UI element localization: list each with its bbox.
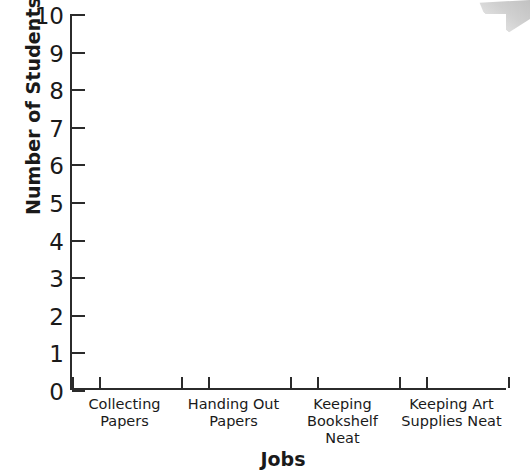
y-axis-tick-label: 5 xyxy=(49,193,64,216)
y-axis-tick-label: 1 xyxy=(49,343,64,366)
x-axis-tick xyxy=(72,377,74,388)
x-axis-tick xyxy=(99,377,101,388)
x-axis-tick xyxy=(508,377,510,388)
y-axis-tick: 10 xyxy=(72,14,85,16)
y-axis-tick: 0 xyxy=(72,390,85,392)
y-axis-tick-label: 0 xyxy=(49,381,64,404)
x-axis-tick xyxy=(208,377,210,388)
x-axis-tick xyxy=(426,377,428,388)
x-axis-tick xyxy=(181,377,183,388)
y-axis-tick-label: 8 xyxy=(49,80,64,103)
x-axis-category-labels: Collecting PapersHanding Out PapersKeepi… xyxy=(70,396,506,450)
y-axis-tick: 3 xyxy=(72,277,85,279)
y-axis-tick-label: 9 xyxy=(49,42,64,65)
y-axis-tick: 6 xyxy=(72,164,85,166)
y-axis-tick-label: 3 xyxy=(49,268,64,291)
y-axis-tick: 4 xyxy=(72,240,85,242)
x-axis-category-label: Handing Out Papers xyxy=(179,396,288,430)
y-axis-tick-label: 2 xyxy=(49,305,64,328)
y-axis-tick-label: 6 xyxy=(49,155,64,178)
plot-inner-canvas: 109876543210 xyxy=(72,14,506,388)
y-axis-tick-label: 4 xyxy=(49,230,64,253)
x-axis-category-label: Collecting Papers xyxy=(70,396,179,430)
y-axis-tick-label: 10 xyxy=(35,5,64,28)
y-axis-tick: 1 xyxy=(72,352,85,354)
y-axis-tick: 5 xyxy=(72,202,85,204)
y-axis-title: Number of Students xyxy=(22,0,44,221)
y-axis-tick: 8 xyxy=(72,89,85,91)
y-axis-tick: 9 xyxy=(72,52,85,54)
x-axis-category-label: Keeping Bookshelf Neat xyxy=(288,396,397,447)
x-axis-category-label: Keeping Art Supplies Neat xyxy=(397,396,506,430)
x-axis-tick xyxy=(290,377,292,388)
y-axis-tick-label: 7 xyxy=(49,117,64,140)
plot-area: 109876543210 xyxy=(70,14,506,390)
y-axis-tick: 2 xyxy=(72,315,85,317)
x-axis-title: Jobs xyxy=(0,448,530,470)
x-axis-tick xyxy=(317,377,319,388)
x-axis-tick xyxy=(399,377,401,388)
y-axis-tick: 7 xyxy=(72,127,85,129)
